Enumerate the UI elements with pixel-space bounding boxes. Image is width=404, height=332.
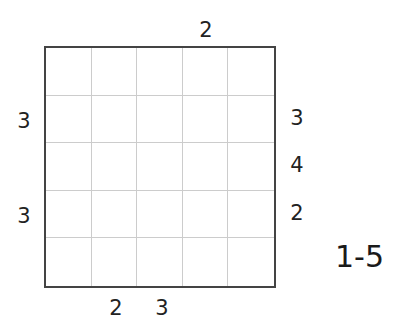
grid-cell-r2-c5[interactable] — [228, 96, 274, 144]
clue-right-row-2: 3 — [285, 108, 309, 129]
grid-cell-r5-c4[interactable] — [183, 238, 229, 286]
grid-cell-r3-c3[interactable] — [137, 143, 183, 191]
clue-bottom-col-2: 2 — [104, 298, 128, 319]
grid-cell-r3-c2[interactable] — [92, 143, 138, 191]
grid-cell-r4-c4[interactable] — [183, 191, 229, 239]
grid-cell-r1-c2[interactable] — [92, 48, 138, 96]
grid-cell-r5-c5[interactable] — [228, 238, 274, 286]
clue-left-row-2: 3 — [12, 111, 36, 132]
grid-cell-r3-c4[interactable] — [183, 143, 229, 191]
clue-right-row-3: 4 — [285, 155, 309, 176]
grid-cell-r1-c4[interactable] — [183, 48, 229, 96]
grid-cell-r4-c2[interactable] — [92, 191, 138, 239]
grid-cell-r1-c3[interactable] — [137, 48, 183, 96]
grid-cell-r2-c1[interactable] — [46, 96, 92, 144]
grid-cell-r2-c3[interactable] — [137, 96, 183, 144]
grid-cell-r3-c1[interactable] — [46, 143, 92, 191]
grid-cell-r4-c3[interactable] — [137, 191, 183, 239]
grid-cell-r5-c1[interactable] — [46, 238, 92, 286]
grid-cell-r4-c5[interactable] — [228, 191, 274, 239]
grid-cell-r5-c3[interactable] — [137, 238, 183, 286]
grid-cell-r1-c1[interactable] — [46, 48, 92, 96]
skyscraper-puzzle: 2 2 3 3 3 3 4 2 1-5 — [0, 0, 404, 332]
clue-left-row-4: 3 — [12, 206, 36, 227]
clue-top-col-4: 2 — [194, 20, 218, 41]
grid-cell-r2-c2[interactable] — [92, 96, 138, 144]
clue-right-row-4: 2 — [285, 203, 309, 224]
grid-cell-r5-c2[interactable] — [92, 238, 138, 286]
puzzle-grid — [44, 46, 276, 288]
grid-cell-r1-c5[interactable] — [228, 48, 274, 96]
clue-bottom-col-3: 3 — [150, 298, 174, 319]
grid-cell-r2-c4[interactable] — [183, 96, 229, 144]
number-range-label: 1-5 — [335, 242, 384, 272]
grid-cell-r4-c1[interactable] — [46, 191, 92, 239]
grid-cell-r3-c5[interactable] — [228, 143, 274, 191]
